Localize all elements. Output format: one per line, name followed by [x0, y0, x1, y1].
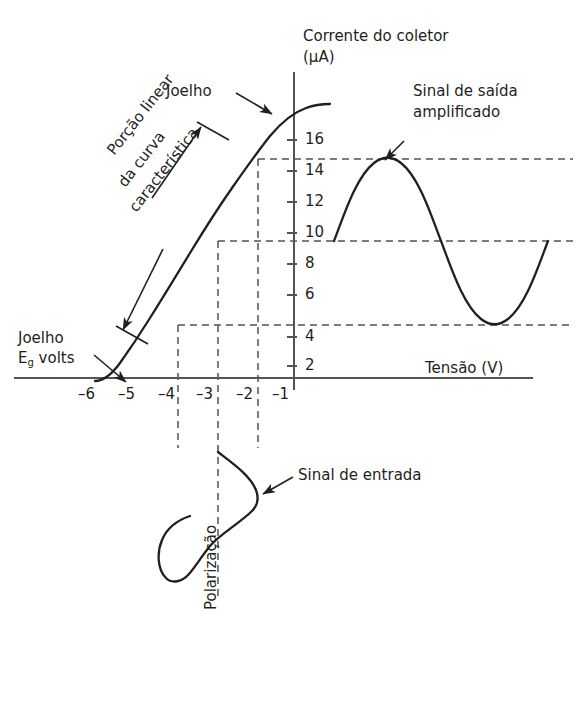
- leader-output-signal: [385, 141, 404, 160]
- y-tick-6: 6: [305, 286, 315, 304]
- leader-linear-lower: [123, 249, 163, 330]
- y-tick-14: 14: [305, 162, 324, 180]
- y-tick-16: 16: [305, 131, 324, 149]
- x-tick-minus5: –5: [118, 386, 135, 404]
- y-axis-title-line1: Corrente do coletor: [303, 28, 449, 46]
- x-axis-title: Tensão (V): [425, 360, 503, 378]
- y-axis-title-line2: (µA): [303, 49, 335, 67]
- y-tick-4: 4: [305, 328, 315, 346]
- knee-bottom-label-line1: Joelho: [18, 330, 64, 348]
- y-tick-2: 2: [305, 357, 315, 375]
- construction-lines: [178, 159, 573, 600]
- knee-bottom-label-line2: Eg volts: [18, 350, 75, 369]
- y-tick-8: 8: [305, 255, 315, 273]
- leader-input-signal: [263, 477, 293, 494]
- x-tick-minus2: –2: [236, 386, 253, 404]
- x-tick-minus1: –1: [272, 386, 289, 404]
- leader-knee-top: [236, 93, 272, 114]
- bracket-bar-upper: [197, 122, 229, 140]
- x-tick-minus3: –3: [196, 386, 213, 404]
- y-axis-tick-marks: [287, 140, 297, 366]
- input-signal-label: Sinal de entrada: [298, 467, 422, 485]
- x-tick-minus6: –6: [78, 386, 95, 404]
- y-tick-12: 12: [305, 193, 324, 211]
- eg-unit: volts: [34, 349, 75, 367]
- x-tick-minus4: –4: [158, 386, 175, 404]
- y-tick-10: 10: [305, 224, 324, 242]
- bias-label: Polarização: [203, 525, 221, 610]
- figure-canvas: Corrente do coletor (µA) Tensão (V) 16 1…: [0, 0, 581, 719]
- output-signal-label-line1: Sinal de saída: [413, 83, 518, 101]
- output-signal-label-line2: amplificado: [413, 104, 500, 122]
